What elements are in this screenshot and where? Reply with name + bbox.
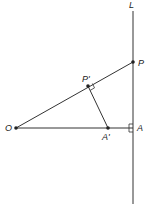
label-l: L — [129, 0, 134, 10]
point-p — [131, 60, 135, 64]
segment-pprime-aprime — [88, 86, 108, 128]
label-a: A — [136, 123, 143, 133]
point-a-prime — [106, 126, 110, 130]
label-a-prime: A' — [101, 132, 110, 142]
point-p-prime — [86, 84, 90, 88]
label-p: P — [138, 58, 144, 68]
label-p-prime: P' — [82, 74, 90, 84]
point-o — [14, 126, 18, 130]
segment-op — [16, 62, 133, 128]
label-o: O — [5, 123, 12, 133]
diagram-canvas: L P P' O A A' — [0, 0, 152, 204]
